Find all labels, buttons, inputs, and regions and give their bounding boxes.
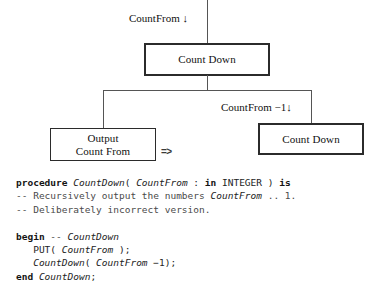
code-token-id: CountDown [73,177,124,188]
code-blank-line [16,216,376,229]
code-token-kw: in [205,177,216,188]
code-token-cm: -- Deliberately incorrect version. [16,204,210,215]
edge-bus-to-recursive [311,90,312,124]
edge-label-top: CountFrom ↓ [129,12,188,24]
code-token-id: CountFrom [136,177,187,188]
code-token-id: CountFrom [62,244,113,255]
code-token-pl: ( [125,177,136,188]
code-line: begin -- CountDown [16,230,376,243]
code-token-id: CountDown [39,271,90,282]
implies-symbol: => [161,146,172,157]
code-token-pl: ( [85,257,96,268]
code-token-kw: begin [16,231,45,242]
node-count-down-recursive: Count Down [259,124,363,154]
edge-label-right: CountFrom −1↓ [221,101,292,113]
code-token-id: CountFrom [96,257,147,268]
node-label: Count Down [282,133,340,146]
node-label-line-2: Count From [76,145,130,158]
code-listing: procedure CountDown( CountFrom : in INTE… [16,176,376,283]
edge-bus-horizontal [103,90,312,91]
code-token-pl: −1); [148,257,177,268]
code-line: CountDown( CountFrom −1); [16,256,376,269]
structure-diagram: CountFrom ↓ Count Down CountFrom −1↓ Out… [0,0,382,170]
code-token-kw: end [16,271,39,282]
code-token-pl [16,257,33,268]
code-token-cm: -- Recursively output the numbers [16,190,210,201]
code-token-id: CountFrom [210,190,261,201]
code-token-kw: is [279,177,290,188]
code-token-cm: .. 1. [262,190,296,201]
code-token-pl: : [188,177,205,188]
code-token-pl: ; [90,271,96,282]
code-token-id: CountDown [68,231,119,242]
edge-root-to-bus [207,75,208,91]
code-token-cm: -- [45,231,68,242]
code-token-pl: PUT( [16,244,62,255]
code-token-pl: ); [113,244,130,255]
node-label-line-1: Output [87,132,118,145]
edge-bus-to-output [103,90,104,128]
figure-recursive-countdown: CountFrom ↓ Count Down CountFrom −1↓ Out… [0,0,382,308]
node-label: Count Down [178,53,236,66]
code-token-kw: procedure [16,177,73,188]
code-token-id: CountDown [33,257,84,268]
code-line: end CountDown; [16,270,376,283]
edge-top-stem [207,0,208,44]
node-count-down-root: Count Down [145,44,269,75]
code-token-pl: INTEGER ) [216,177,279,188]
code-line: -- Deliberately incorrect version. [16,203,376,216]
code-line: -- Recursively output the numbers CountF… [16,189,376,202]
node-output-count-from: Output Count From [50,128,156,161]
code-line: PUT( CountFrom ); [16,243,376,256]
code-line: procedure CountDown( CountFrom : in INTE… [16,176,376,189]
